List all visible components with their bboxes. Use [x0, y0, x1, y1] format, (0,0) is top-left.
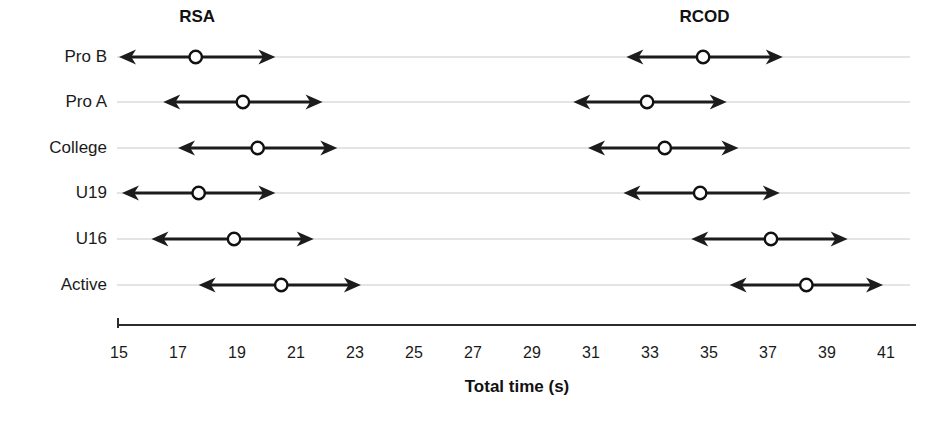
category-label: Pro A: [65, 92, 107, 111]
x-tick-label: 19: [228, 344, 246, 361]
x-axis-group: [118, 318, 916, 328]
range-marker-rsa: [122, 186, 275, 201]
range-marker-rsa: [199, 278, 361, 293]
x-tick-label: 31: [582, 344, 600, 361]
mean-marker: [275, 279, 287, 291]
x-axis-title: Total time (s): [465, 377, 570, 396]
gridlines-group: [117, 57, 910, 285]
group-title-rsa: RSA: [179, 7, 215, 26]
mean-marker: [251, 142, 263, 154]
mean-marker: [697, 51, 709, 63]
group-title-rcod: RCOD: [680, 7, 730, 26]
x-tick-label: 37: [759, 344, 777, 361]
category-label: U19: [76, 183, 107, 202]
x-tick-label: 15: [110, 344, 128, 361]
range-marker-rsa: [178, 141, 337, 156]
mean-marker: [694, 187, 706, 199]
category-labels-group: Pro BPro ACollegeU19U16Active: [49, 47, 107, 294]
range-marker-rsa: [119, 50, 275, 65]
x-tick-label: 27: [464, 344, 482, 361]
range-marker-rcod: [623, 186, 779, 201]
category-label: Pro B: [64, 47, 107, 66]
x-tick-label: 23: [346, 344, 364, 361]
range-marker-rcod: [626, 50, 782, 65]
mean-marker: [228, 233, 240, 245]
x-tick-label: 29: [523, 344, 541, 361]
group-titles-group: RSARCOD: [179, 7, 729, 26]
x-tick-label: 25: [405, 344, 423, 361]
mean-marker: [641, 96, 653, 108]
range-marker-rcod: [730, 278, 883, 293]
chart-container: Pro BPro ACollegeU19U16Active RSARCOD 15…: [0, 0, 946, 427]
range-marker-rsa: [151, 232, 313, 247]
range-marker-rcod: [691, 232, 847, 247]
x-tick-label: 39: [818, 344, 836, 361]
x-tick-label: 41: [877, 344, 895, 361]
x-axis-title-group: Total time (s): [465, 377, 570, 396]
x-tick-labels-group: 1517192123252729313335373941: [110, 344, 895, 361]
category-label: College: [49, 138, 107, 157]
mean-marker: [800, 279, 812, 291]
x-tick-label: 35: [700, 344, 718, 361]
range-marker-rcod: [588, 141, 738, 156]
category-label: U16: [76, 229, 107, 248]
mean-marker: [237, 96, 249, 108]
category-label: Active: [61, 275, 107, 294]
data-ranges-group: [119, 50, 883, 293]
mean-marker: [765, 233, 777, 245]
x-tick-label: 17: [169, 344, 187, 361]
x-tick-label: 33: [641, 344, 659, 361]
range-plot-svg: Pro BPro ACollegeU19U16Active RSARCOD 15…: [0, 0, 946, 427]
mean-marker: [659, 142, 671, 154]
mean-marker: [192, 187, 204, 199]
range-marker-rsa: [163, 95, 322, 110]
range-marker-rcod: [573, 95, 726, 110]
mean-marker: [190, 51, 202, 63]
x-tick-label: 21: [287, 344, 305, 361]
